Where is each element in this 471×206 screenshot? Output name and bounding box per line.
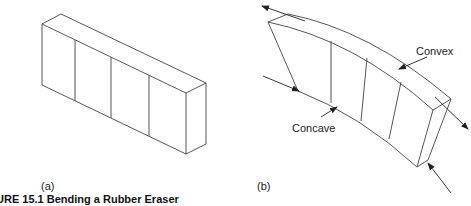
panel-a-label: (a) <box>41 180 54 192</box>
concave-pointer-arrow <box>321 107 337 117</box>
bent-eraser-block <box>268 14 451 167</box>
force-arrows <box>262 6 468 193</box>
concave-label: Concave <box>292 122 335 134</box>
convex-label: Convex <box>416 45 453 57</box>
panel-b-label: (b) <box>257 180 270 192</box>
tension-arrow-right <box>435 97 468 129</box>
figure-caption: URE 15.1 Bending a Rubber Eraser <box>0 193 179 205</box>
straight-eraser-block <box>42 14 206 154</box>
tension-arrow-left <box>262 6 305 21</box>
figure-canvas <box>0 0 471 206</box>
compression-arrow-left <box>263 76 299 91</box>
compression-arrow-right <box>428 163 451 193</box>
